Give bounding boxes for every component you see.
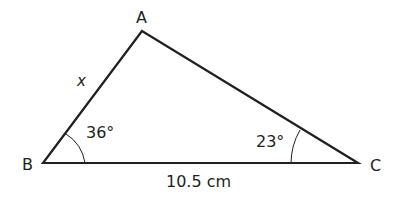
vertex-label-a: A: [136, 10, 147, 26]
angle-arc-b: [66, 134, 85, 163]
angle-label-b: 36°: [86, 125, 114, 141]
angle-arc-c: [291, 130, 300, 163]
vertex-label-c: C: [370, 158, 381, 174]
angle-label-c: 23°: [256, 134, 284, 150]
triangle-outline: [43, 31, 358, 163]
vertex-label-b: B: [22, 157, 33, 173]
side-label-ab: x: [77, 74, 86, 89]
triangle-diagram: A B C x 10.5 cm 36° 23°: [0, 0, 404, 212]
side-label-bc: 10.5 cm: [166, 174, 231, 190]
